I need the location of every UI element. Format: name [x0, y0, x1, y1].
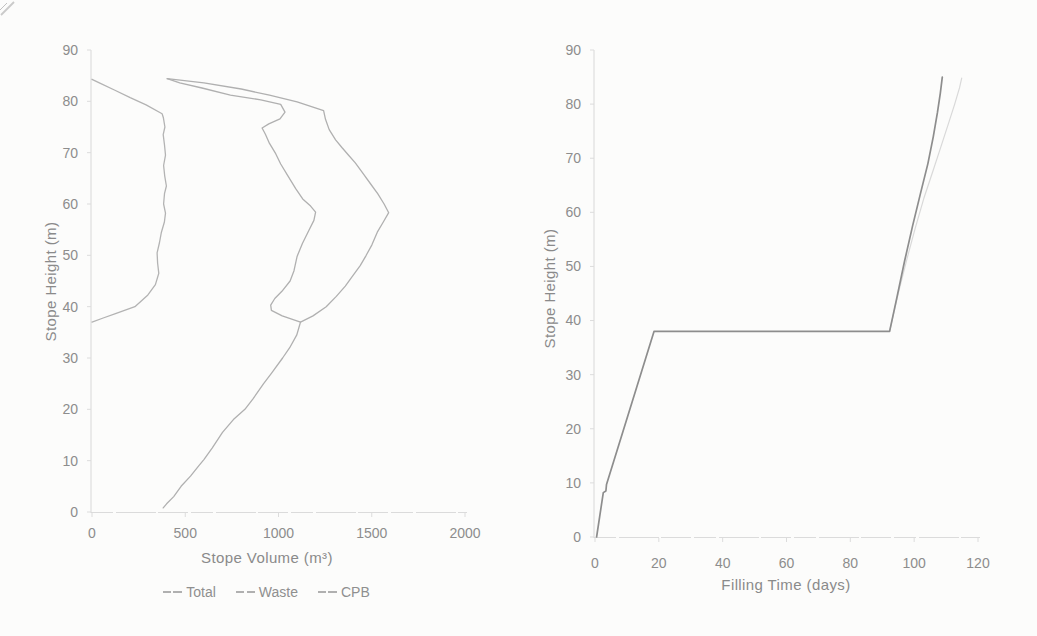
x-tick-label: 0: [591, 555, 599, 571]
x-tick-label: 120: [966, 555, 990, 571]
total-line-sample: [163, 591, 182, 593]
y-tick-label: 20: [62, 401, 78, 417]
scan-artifact: [0, 2, 14, 15]
y-tick-label: 80: [565, 96, 581, 112]
legend-label-total: Total: [186, 584, 216, 600]
series-line-CPB: [92, 79, 166, 322]
x-tick-label: 0: [88, 525, 96, 541]
x-tick-label: 60: [779, 555, 795, 571]
y-tick-label: 10: [565, 475, 581, 491]
series-line-Waste: [167, 79, 315, 322]
waste-line-sample: [236, 591, 255, 593]
y-tick-label: 30: [62, 350, 78, 366]
y-tick-label: 30: [565, 367, 581, 383]
y-tick-label: 90: [565, 42, 581, 58]
volume-chart-xaxis-title: Stope Volume (m³): [167, 549, 367, 566]
y-tick-label: 40: [565, 312, 581, 328]
filling-chart-xaxis-title: Filling Time (days): [686, 576, 886, 593]
y-tick-label: 90: [62, 42, 78, 58]
x-tick-label: 2000: [449, 525, 480, 541]
volume-chart-legend: Total Waste CPB: [80, 584, 453, 600]
filling-time-chart: 0204060801001200102030405060708090: [565, 42, 989, 571]
x-tick-label: 20: [651, 555, 667, 571]
y-tick-label: 20: [565, 421, 581, 437]
legend-item-total: Total: [163, 584, 216, 600]
legend-item-waste: Waste: [236, 584, 298, 600]
series-line-filling-curve-secondary: [890, 78, 962, 331]
y-tick-label: 70: [62, 145, 78, 161]
y-tick-label: 50: [62, 247, 78, 263]
legend-item-cpb: CPB: [318, 584, 370, 600]
y-tick-label: 50: [565, 258, 581, 274]
x-tick-label: 80: [843, 555, 859, 571]
cpb-line-sample: [318, 591, 337, 593]
y-tick-label: 60: [565, 204, 581, 220]
y-tick-label: 40: [62, 299, 78, 315]
x-tick-label: 1000: [263, 525, 294, 541]
scanned-figure-page: 05001000150020000102030405060708090 0204…: [0, 0, 1037, 636]
x-tick-label: 500: [174, 525, 198, 541]
y-tick-label: 80: [62, 93, 78, 109]
legend-label-cpb: CPB: [341, 584, 370, 600]
volume-chart-yaxis-title: Stope Height (m): [42, 182, 59, 382]
y-tick-label: 10: [62, 453, 78, 469]
y-tick-label: 60: [62, 196, 78, 212]
y-tick-label: 0: [70, 504, 78, 520]
x-tick-label: 40: [715, 555, 731, 571]
y-tick-label: 0: [573, 529, 581, 545]
filling-chart-yaxis-title: Stope Height (m): [541, 189, 558, 389]
y-tick-label: 70: [565, 150, 581, 166]
x-tick-label: 1500: [356, 525, 387, 541]
series-line-Total: [163, 79, 389, 508]
x-tick-label: 100: [902, 555, 926, 571]
series-line-filling-curve: [597, 77, 943, 537]
charts-canvas: 05001000150020000102030405060708090 0204…: [0, 0, 1037, 636]
legend-label-waste: Waste: [259, 584, 298, 600]
stope-volume-chart: 05001000150020000102030405060708090: [62, 42, 480, 541]
